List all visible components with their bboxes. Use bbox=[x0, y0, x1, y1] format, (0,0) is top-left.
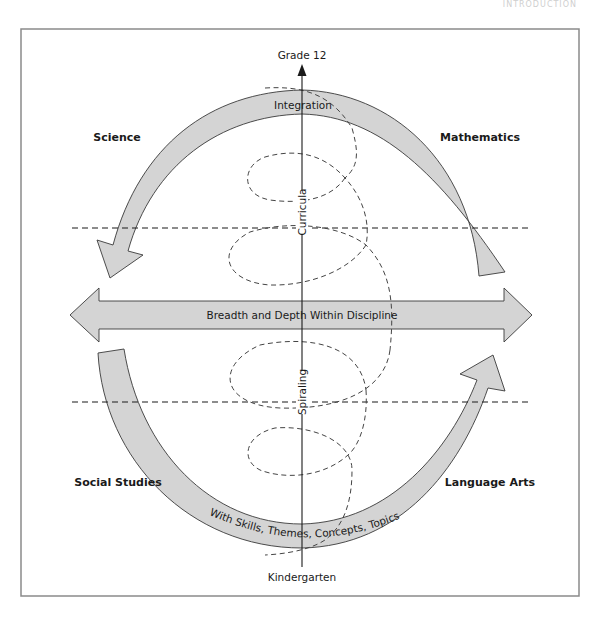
spiraling-label: Spiraling bbox=[296, 369, 308, 415]
social-studies-label: Social Studies bbox=[74, 476, 162, 489]
curricula-label: Curricula bbox=[296, 188, 308, 235]
integration-label: Integration bbox=[274, 99, 332, 111]
axis-arrowhead-icon bbox=[298, 64, 307, 76]
top-curved-arrow bbox=[97, 90, 505, 278]
mathematics-label: Mathematics bbox=[440, 131, 520, 144]
language-arts-label: Language Arts bbox=[445, 476, 536, 489]
breadth-depth-label: Breadth and Depth Within Discipline bbox=[207, 309, 398, 321]
kindergarten-label: Kindergarten bbox=[268, 571, 336, 583]
grade-12-label: Grade 12 bbox=[278, 49, 327, 61]
science-label: Science bbox=[93, 131, 141, 144]
spiral-curriculum-diagram: Grade 12 Kindergarten Integration Curric… bbox=[0, 0, 599, 617]
